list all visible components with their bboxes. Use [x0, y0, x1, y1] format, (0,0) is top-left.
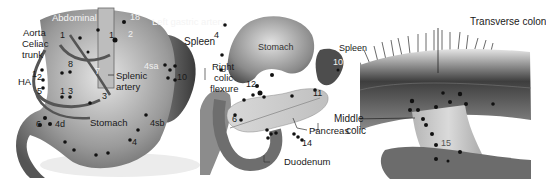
label-ha: HA [18, 77, 31, 87]
label-colic-right: colic [346, 126, 366, 137]
label-celiac: Celiac [22, 39, 48, 49]
station-11: 11 [313, 88, 322, 98]
station-4sb: 4sb [150, 118, 165, 128]
station-10-middle: 10 [333, 57, 343, 67]
station-3b: 3 [102, 91, 107, 101]
label-flexure: flexure [210, 84, 239, 94]
panel-transverse-colon: Transverse colon Middle colic 15 [360, 0, 531, 179]
label-right: Right [212, 62, 234, 72]
label-transverse-colon: Transverse colon [470, 17, 546, 28]
station-6: 6 [36, 119, 41, 129]
label-stomach: Stomach [90, 118, 128, 128]
label-splenic: Splenic [116, 71, 147, 81]
label-aorta: Aorta [23, 28, 46, 38]
station-2a: 2 [128, 29, 133, 39]
label-artery: artery [116, 82, 140, 92]
station-4sa: 4sa [144, 61, 159, 71]
station-14: 14 [302, 138, 312, 148]
label-duodenum: Duodenum [284, 157, 330, 167]
station-4-middle: 4 [214, 30, 219, 40]
label-trunk: trunk [22, 50, 43, 60]
station-1b: 1 [109, 30, 114, 40]
label-pancreas: Pancreas [309, 126, 349, 136]
station-15: 15 [441, 138, 451, 148]
station-12: 12 [246, 79, 256, 89]
label-colic: colic [214, 73, 233, 83]
label-abdominal: Abdominal [52, 13, 97, 23]
station-4: 4 [132, 137, 137, 147]
station-10: 10 [177, 72, 187, 82]
station-4d: 4d [55, 119, 65, 129]
station-3a: 3 [68, 86, 73, 96]
station-2b: 2 [37, 72, 42, 82]
panel-stomach-vessels: Abdominal Left gastric artery Aorta Celi… [0, 0, 200, 179]
station-6-middle: 6 [232, 114, 237, 124]
station-1d: 1 [60, 86, 65, 96]
station-5: 5 [37, 86, 42, 96]
label-stomach-middle: Stomach [258, 43, 294, 52]
station-7: 7 [95, 66, 100, 76]
station-18: 18 [130, 12, 140, 22]
label-middle: Middle [334, 114, 363, 125]
station-8: 8 [68, 59, 73, 69]
station-1a: 1 [60, 30, 65, 40]
panel-pancreas-duodenum: Stomach Spleen Right colic flexure Pancr… [200, 0, 350, 179]
